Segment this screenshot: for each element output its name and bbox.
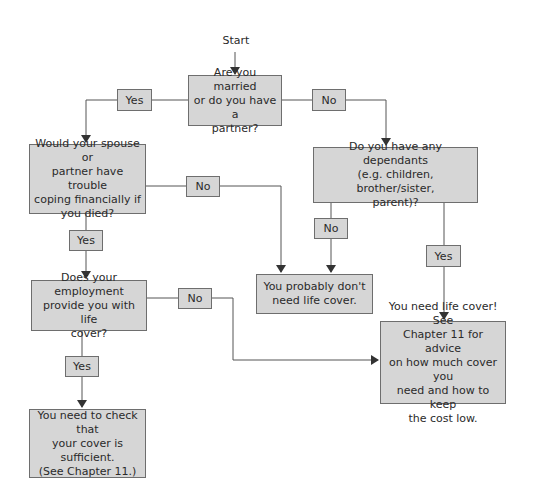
employment-question-box: Does your employment provide you with li… xyxy=(31,280,147,331)
check-cover-result-box: You need to check that your cover is suf… xyxy=(29,409,146,478)
dependants-question-box: Do you have any dependants (e.g. childre… xyxy=(313,147,478,203)
spouse-no-label: No xyxy=(186,176,220,197)
employment-no-label: No xyxy=(178,288,212,309)
employment-yes-label: Yes xyxy=(65,356,99,377)
dependants-yes-label: Yes xyxy=(426,245,461,267)
married-question-box: Are you married or do you have a partner… xyxy=(188,75,282,126)
need-life-cover-result-box: You need life cover! See Chapter 11 for … xyxy=(380,321,506,404)
flowchart-canvas: Start Are you married or do you have a p… xyxy=(0,0,534,499)
probably-no-cover-result-box: You probably don't need life cover. xyxy=(256,274,373,314)
start-label: Start xyxy=(216,34,256,47)
dependants-no-label: No xyxy=(314,218,348,239)
married-no-label: No xyxy=(312,89,346,111)
married-yes-label: Yes xyxy=(117,89,152,111)
spouse-trouble-question-box: Would your spouse or partner have troubl… xyxy=(29,144,146,214)
spouse-yes-label: Yes xyxy=(69,230,103,251)
